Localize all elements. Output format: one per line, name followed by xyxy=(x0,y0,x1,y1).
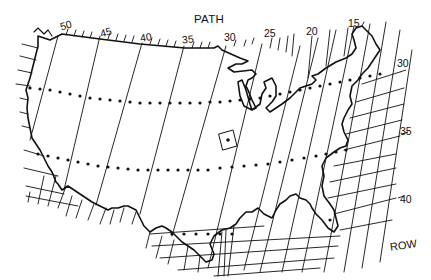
path-label-30: 30 xyxy=(224,32,236,43)
map-graphic xyxy=(0,0,431,280)
path-label-25: 25 xyxy=(264,28,276,39)
row-label-30: 30 xyxy=(397,58,409,69)
path-label-20: 20 xyxy=(306,26,318,37)
path-axis-label: PATH xyxy=(194,14,224,26)
path-label-15: 15 xyxy=(348,18,360,29)
row-dots xyxy=(28,72,381,235)
path-label-50: 50 xyxy=(59,19,73,32)
path-row-map: PATH 50 45 40 35 30 25 20 15 30 35 40 RO… xyxy=(0,0,431,280)
path-label-35: 35 xyxy=(182,34,195,45)
path-label-40: 40 xyxy=(139,31,152,43)
path-label-45: 45 xyxy=(99,26,113,39)
row-label-35: 35 xyxy=(400,126,412,137)
west-grid xyxy=(16,44,136,224)
row-label-40: 40 xyxy=(400,194,412,205)
